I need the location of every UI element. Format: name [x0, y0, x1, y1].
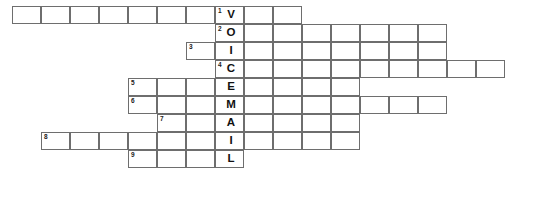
crossword-cell[interactable]	[302, 42, 331, 60]
keyword-letter: M	[216, 97, 243, 113]
crossword-cell[interactable]	[331, 42, 360, 60]
crossword-cell[interactable]: 3	[186, 42, 215, 60]
crossword-cell[interactable]	[186, 132, 215, 150]
keyword-letter: A	[216, 115, 243, 131]
crossword-keyword-cell[interactable]: 4C	[215, 60, 244, 78]
crossword-cell[interactable]	[360, 24, 389, 42]
clue-number: 3	[189, 43, 193, 51]
crossword-cell[interactable]	[186, 6, 215, 24]
crossword-cell[interactable]	[360, 42, 389, 60]
crossword-cell[interactable]	[41, 6, 70, 24]
crossword-cell[interactable]	[331, 78, 360, 96]
keyword-letter: O	[216, 25, 243, 41]
crossword-cell[interactable]	[157, 6, 186, 24]
crossword-cell[interactable]	[331, 60, 360, 78]
crossword-cell[interactable]	[331, 24, 360, 42]
clue-number: 5	[131, 79, 135, 87]
crossword-cell[interactable]	[157, 78, 186, 96]
crossword-keyword-cell[interactable]: A	[215, 114, 244, 132]
crossword-cell[interactable]: 7	[157, 114, 186, 132]
crossword-cell[interactable]	[389, 42, 418, 60]
keyword-letter: V	[216, 7, 243, 23]
crossword-cell[interactable]	[157, 150, 186, 168]
crossword-cell[interactable]	[99, 6, 128, 24]
crossword-cell[interactable]: 5	[128, 78, 157, 96]
crossword-cell[interactable]	[389, 24, 418, 42]
crossword-cell[interactable]	[128, 132, 157, 150]
crossword-keyword-cell[interactable]: 2O	[215, 24, 244, 42]
crossword-cell[interactable]	[418, 96, 447, 114]
crossword-cell[interactable]	[70, 6, 99, 24]
crossword-cell[interactable]	[360, 96, 389, 114]
clue-number: 7	[160, 115, 164, 123]
crossword-cell[interactable]	[244, 42, 273, 60]
crossword-keyword-cell[interactable]: M	[215, 96, 244, 114]
crossword-cell[interactable]	[418, 24, 447, 42]
crossword-cell[interactable]	[12, 6, 41, 24]
crossword-cell[interactable]	[186, 114, 215, 132]
crossword-cell[interactable]	[331, 96, 360, 114]
crossword-cell[interactable]	[302, 114, 331, 132]
crossword-cell[interactable]	[70, 132, 99, 150]
crossword-cell[interactable]	[157, 132, 186, 150]
crossword-cell[interactable]	[418, 60, 447, 78]
crossword-cell[interactable]	[302, 78, 331, 96]
crossword-cell[interactable]	[244, 132, 273, 150]
crossword-cell[interactable]	[244, 78, 273, 96]
crossword-cell[interactable]: 8	[41, 132, 70, 150]
crossword-cell[interactable]	[302, 24, 331, 42]
crossword-cell[interactable]	[128, 6, 157, 24]
clue-number: 9	[131, 151, 135, 159]
crossword-cell[interactable]	[418, 42, 447, 60]
crossword-cell[interactable]	[389, 96, 418, 114]
crossword-cell[interactable]: 9	[128, 150, 157, 168]
crossword-cell[interactable]	[244, 60, 273, 78]
crossword-cell[interactable]	[302, 132, 331, 150]
crossword-cell[interactable]	[302, 60, 331, 78]
crossword-keyword-cell[interactable]: I	[215, 42, 244, 60]
crossword-keyword-cell[interactable]: I	[215, 132, 244, 150]
crossword-cell[interactable]	[99, 132, 128, 150]
crossword-cell[interactable]	[476, 60, 505, 78]
crossword-cell[interactable]	[273, 78, 302, 96]
crossword-cell[interactable]	[447, 60, 476, 78]
crossword-cell[interactable]	[331, 132, 360, 150]
crossword-cell[interactable]	[186, 96, 215, 114]
clue-number: 6	[131, 97, 135, 105]
keyword-letter: E	[216, 79, 243, 95]
crossword-cell[interactable]	[273, 24, 302, 42]
crossword-cell[interactable]	[244, 96, 273, 114]
crossword-grid: 1V2O3I4C5E6M7A8I9L	[0, 0, 537, 209]
crossword-cell[interactable]	[331, 114, 360, 132]
crossword-cell[interactable]	[186, 150, 215, 168]
crossword-keyword-cell[interactable]: L	[215, 150, 244, 168]
crossword-keyword-cell[interactable]: 1V	[215, 6, 244, 24]
crossword-cell[interactable]	[157, 96, 186, 114]
crossword-cell[interactable]	[273, 60, 302, 78]
crossword-cell[interactable]: 6	[128, 96, 157, 114]
crossword-cell[interactable]	[186, 78, 215, 96]
crossword-keyword-cell[interactable]: E	[215, 78, 244, 96]
keyword-letter: C	[216, 61, 243, 77]
crossword-cell[interactable]	[389, 60, 418, 78]
keyword-letter: I	[216, 43, 243, 59]
crossword-cell[interactable]	[244, 114, 273, 132]
crossword-cell[interactable]	[273, 42, 302, 60]
keyword-letter: L	[216, 151, 243, 167]
crossword-cell[interactable]	[360, 60, 389, 78]
crossword-cell[interactable]	[273, 96, 302, 114]
crossword-cell[interactable]	[273, 6, 302, 24]
keyword-letter: I	[216, 133, 243, 149]
crossword-cell[interactable]	[302, 96, 331, 114]
crossword-cell[interactable]	[244, 24, 273, 42]
crossword-cell[interactable]	[273, 132, 302, 150]
clue-number: 8	[44, 133, 48, 141]
crossword-cell[interactable]	[273, 114, 302, 132]
crossword-cell[interactable]	[244, 6, 273, 24]
